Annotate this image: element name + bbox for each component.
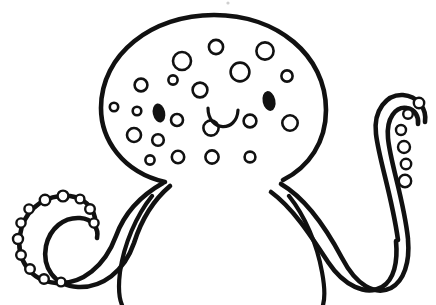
tentacle-sucker bbox=[403, 109, 413, 119]
scan-speck bbox=[226, 1, 229, 4]
tentacle-sucker bbox=[58, 191, 69, 202]
tentacle-sucker bbox=[25, 264, 35, 274]
head-spot bbox=[203, 120, 218, 135]
tentacle-sucker bbox=[39, 274, 49, 284]
tentacle-sucker bbox=[85, 204, 95, 214]
tentacle-sucker bbox=[57, 278, 66, 287]
head-spot bbox=[110, 103, 118, 111]
tentacle-sucker bbox=[398, 141, 410, 153]
head-spot bbox=[205, 150, 218, 163]
tentacle-sucker bbox=[414, 98, 424, 108]
head-spot bbox=[127, 128, 141, 142]
tentacle-sucker bbox=[76, 195, 85, 204]
tentacle-sucker bbox=[24, 204, 33, 213]
tentacle-sucker bbox=[401, 159, 411, 169]
tentacle-sucker bbox=[89, 218, 98, 227]
head-spot bbox=[133, 107, 142, 116]
head-spot bbox=[152, 134, 164, 146]
drawing-canvas bbox=[0, 0, 436, 305]
octopus-illustration bbox=[0, 0, 436, 305]
head-spot bbox=[171, 114, 183, 126]
head-spot bbox=[245, 152, 256, 163]
head-spot bbox=[193, 83, 208, 98]
head-spot bbox=[281, 70, 292, 81]
tentacle-sucker bbox=[396, 125, 406, 135]
scan-artifacts-group bbox=[226, 1, 229, 4]
head-spot bbox=[168, 75, 177, 84]
head-spot bbox=[256, 42, 273, 59]
tentacle-sucker bbox=[16, 218, 25, 227]
head-spot bbox=[135, 79, 148, 92]
head-spot bbox=[145, 155, 154, 164]
tentacle-sucker bbox=[13, 234, 23, 244]
tentacle-sucker bbox=[399, 175, 411, 187]
head-spot bbox=[173, 52, 191, 70]
tentacle-sucker bbox=[40, 195, 50, 205]
head-spot bbox=[231, 63, 250, 82]
head-spot bbox=[244, 115, 257, 128]
head-spot bbox=[172, 151, 184, 163]
tentacle-sucker bbox=[16, 250, 26, 260]
head-spot bbox=[209, 40, 223, 54]
head-spot bbox=[282, 115, 297, 130]
